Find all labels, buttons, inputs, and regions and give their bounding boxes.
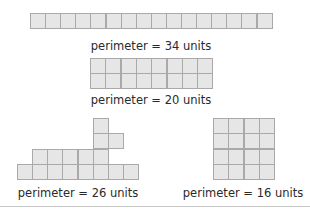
- unit-square: [213, 149, 229, 165]
- unit-square: [90, 13, 106, 29]
- unit-square: [108, 133, 124, 149]
- unit-square: [32, 149, 48, 165]
- unit-square: [244, 149, 260, 165]
- unit-square: [93, 149, 109, 165]
- unit-square: [32, 164, 48, 180]
- unit-square: [30, 13, 46, 29]
- unit-square: [228, 149, 244, 165]
- unit-square: [167, 58, 183, 74]
- unit-square: [78, 149, 94, 165]
- unit-square: [93, 133, 109, 149]
- unit-square: [213, 164, 229, 180]
- unit-square: [93, 164, 109, 180]
- unit-square: [123, 164, 139, 180]
- unit-square: [121, 73, 137, 89]
- unit-square: [166, 13, 182, 29]
- bottom-divider: [0, 206, 310, 207]
- unit-square: [197, 58, 213, 74]
- perimeter-diagram: perimeter = 34 units perimeter = 20 unit…: [0, 0, 310, 209]
- unit-square: [106, 13, 122, 29]
- unit-square: [228, 164, 244, 180]
- perimeter-label-16: perimeter = 16 units: [183, 186, 303, 200]
- unit-square: [78, 164, 94, 180]
- unit-square: [181, 13, 197, 29]
- unit-square: [196, 13, 212, 29]
- unit-square: [259, 118, 275, 134]
- unit-square: [45, 13, 61, 29]
- unit-square: [136, 73, 152, 89]
- unit-square: [75, 13, 91, 29]
- unit-square: [60, 13, 76, 29]
- unit-square: [47, 164, 63, 180]
- unit-square: [226, 13, 242, 29]
- unit-square: [90, 58, 106, 74]
- unit-square: [136, 58, 152, 74]
- unit-square: [93, 118, 109, 134]
- unit-square: [108, 164, 124, 180]
- unit-square: [241, 13, 257, 29]
- unit-square: [244, 118, 260, 134]
- unit-square: [259, 164, 275, 180]
- perimeter-label-26: perimeter = 26 units: [18, 186, 138, 200]
- unit-square: [182, 58, 198, 74]
- unit-square: [211, 13, 227, 29]
- unit-square: [151, 58, 167, 74]
- unit-square: [244, 164, 260, 180]
- unit-square: [90, 73, 106, 89]
- unit-square: [17, 164, 33, 180]
- unit-square: [62, 164, 78, 180]
- unit-square: [62, 149, 78, 165]
- unit-square: [121, 13, 137, 29]
- unit-square: [182, 73, 198, 89]
- unit-square: [228, 133, 244, 149]
- unit-square: [105, 58, 121, 74]
- unit-square: [167, 73, 183, 89]
- unit-square: [151, 73, 167, 89]
- unit-square: [105, 73, 121, 89]
- unit-square: [197, 73, 213, 89]
- unit-square: [213, 118, 229, 134]
- unit-square: [151, 13, 167, 29]
- unit-square: [244, 133, 260, 149]
- unit-square: [228, 118, 244, 134]
- unit-square: [213, 133, 229, 149]
- unit-square: [136, 13, 152, 29]
- unit-square: [47, 149, 63, 165]
- perimeter-label-34: perimeter = 34 units: [91, 39, 211, 53]
- perimeter-label-20: perimeter = 20 units: [91, 93, 211, 107]
- unit-square: [259, 149, 275, 165]
- unit-square: [259, 133, 275, 149]
- unit-square: [257, 13, 273, 29]
- unit-square: [121, 58, 137, 74]
